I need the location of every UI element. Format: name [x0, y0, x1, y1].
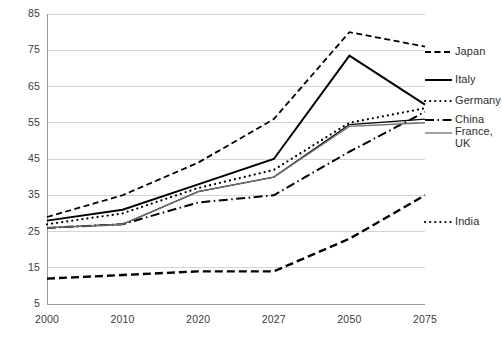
legend-label-france: France,	[455, 126, 493, 138]
y-tick-label: 15	[6, 261, 40, 273]
chart-plot-area	[0, 0, 502, 341]
x-tick-label: 2027	[244, 313, 304, 325]
y-tick-label: 75	[6, 43, 40, 55]
legend-label-japan: Japan	[455, 46, 485, 58]
x-tick-label: 2010	[93, 313, 153, 325]
legend-label-china: China	[455, 114, 484, 126]
x-tick-label: 2075	[395, 313, 455, 325]
x-tick-label: 2000	[17, 313, 77, 325]
legend-label-germany: Germany	[455, 95, 501, 107]
x-tick-label: 2020	[168, 313, 228, 325]
y-tick-label: 65	[6, 80, 40, 92]
series-line-china	[47, 112, 425, 228]
y-tick-label: 55	[6, 116, 40, 128]
y-tick-label: 45	[6, 152, 40, 164]
y-tick-label: 85	[6, 7, 40, 19]
x-tick-label: 2050	[319, 313, 379, 325]
series-line-japan	[47, 32, 425, 217]
y-tick-label: 35	[6, 188, 40, 200]
legend-label-italy: Italy	[455, 74, 476, 86]
line-chart: 85756555453525155 2000201020202027205020…	[0, 0, 502, 341]
gridlines	[47, 14, 425, 304]
legend-label-india: India	[455, 216, 479, 228]
legend-label-uk: UK	[455, 138, 470, 150]
data-series-group	[47, 32, 452, 279]
series-line-italy	[47, 56, 425, 221]
y-tick-label: 25	[6, 225, 40, 237]
y-tick-label: 5	[6, 297, 40, 309]
series-line-india	[47, 195, 425, 278]
